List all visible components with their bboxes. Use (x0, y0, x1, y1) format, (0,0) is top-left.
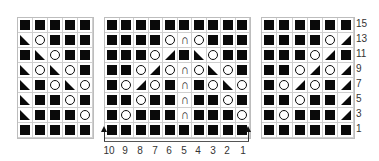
knit-square-icon (107, 80, 117, 90)
chart-cell (293, 123, 308, 138)
left-decrease-triangle-icon (20, 95, 30, 105)
knit-square-icon (295, 35, 305, 45)
chart-cell (236, 78, 251, 93)
knit-square-icon (136, 110, 146, 120)
knit-square-icon (264, 65, 274, 75)
chart-cell (33, 123, 48, 138)
chart-cell (134, 123, 149, 138)
knit-square-icon (121, 20, 131, 30)
chart-cell (149, 108, 164, 123)
row-number: 7 (356, 79, 362, 89)
chart-cell (18, 33, 33, 48)
chart-cell (262, 78, 277, 93)
knit-square-icon (107, 125, 117, 135)
chart-cell (63, 108, 78, 123)
knit-square-icon (35, 80, 45, 90)
stitch-number: 3 (210, 146, 216, 156)
knit-square-icon (208, 110, 218, 120)
right-decrease-triangle-icon (310, 65, 320, 75)
knit-square-icon (107, 35, 117, 45)
right-decrease-triangle-icon (295, 80, 305, 90)
chart-cell (63, 78, 78, 93)
knit-square-icon (223, 125, 233, 135)
yarn-over-circle-icon (223, 65, 233, 75)
chart-cell (163, 33, 178, 48)
chart-cell (78, 108, 93, 123)
knit-square-icon (325, 95, 335, 105)
yarn-over-circle-icon (150, 50, 160, 60)
knit-square-icon (121, 50, 131, 60)
chart-cell (323, 63, 338, 78)
yarn-over-circle-icon (165, 65, 175, 75)
chart-cell (178, 48, 193, 63)
chart-cell (192, 18, 207, 33)
knit-square-icon (223, 20, 233, 30)
chart-cell (262, 123, 277, 138)
chart-cell (33, 108, 48, 123)
chart-cell (293, 93, 308, 108)
knit-square-icon (121, 35, 131, 45)
chart-cell (78, 93, 93, 108)
stitch-number: 1 (240, 146, 246, 156)
chart-cell (48, 108, 63, 123)
chart-cell (323, 93, 338, 108)
chart-cell (221, 78, 236, 93)
chart-grid-repeat: ∩∩∩∩∩ (104, 17, 251, 139)
arrow-up-icon (101, 126, 107, 132)
chart-cell (192, 93, 207, 108)
knit-square-icon (279, 35, 289, 45)
knit-square-icon (295, 110, 305, 120)
knit-square-icon (20, 20, 30, 30)
center-double-decrease-icon: ∩ (180, 65, 188, 75)
knit-square-icon (35, 125, 45, 135)
chart-cell (221, 33, 236, 48)
knit-square-icon (150, 110, 160, 120)
chart-cell (120, 78, 135, 93)
chart-cell (293, 108, 308, 123)
knit-square-icon (107, 65, 117, 75)
chart-cell (221, 18, 236, 33)
chart-cell (48, 18, 63, 33)
knit-square-icon (208, 35, 218, 45)
knit-square-icon (165, 20, 175, 30)
knit-square-icon (179, 20, 189, 30)
chart-cell (207, 78, 222, 93)
chart-cell (134, 18, 149, 33)
chart-cell (308, 78, 323, 93)
knit-square-icon (295, 125, 305, 135)
chart-cell (120, 108, 135, 123)
chart-cell (134, 63, 149, 78)
knit-square-icon (150, 20, 160, 30)
knit-square-icon (136, 125, 146, 135)
chart-cell (105, 123, 120, 138)
yarn-over-circle-icon (279, 80, 289, 90)
chart-cell (323, 33, 338, 48)
stitch-number: 10 (103, 146, 114, 156)
chart-cell (207, 48, 222, 63)
knit-square-icon (50, 110, 60, 120)
chart-cell (134, 33, 149, 48)
chart-cell (105, 33, 120, 48)
knit-square-icon (223, 110, 233, 120)
chart-cell (236, 33, 251, 48)
chart-cell (293, 63, 308, 78)
chart-cell (236, 48, 251, 63)
knit-square-icon (325, 125, 335, 135)
knit-square-icon (65, 35, 75, 45)
chart-cell (48, 33, 63, 48)
center-double-decrease-icon: ∩ (180, 35, 188, 45)
chart-cell (308, 48, 323, 63)
knit-square-icon (310, 110, 320, 120)
chart-cell (149, 33, 164, 48)
chart-cell (134, 78, 149, 93)
right-decrease-triangle-icon (341, 65, 351, 75)
chart-cell (63, 48, 78, 63)
chart-cell (163, 108, 178, 123)
chart-cell (221, 123, 236, 138)
chart-cell (308, 123, 323, 138)
knit-square-icon (264, 110, 274, 120)
knit-square-icon (136, 50, 146, 60)
chart-cell (149, 18, 164, 33)
knit-square-icon (310, 20, 320, 30)
yarn-over-circle-icon (223, 95, 233, 105)
